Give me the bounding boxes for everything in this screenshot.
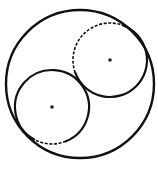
lower-left-center-dot xyxy=(50,105,54,109)
upper-right-center-dot xyxy=(108,58,112,62)
circles-diagram xyxy=(0,0,158,173)
upper-right-circle-dashed-arc xyxy=(73,23,123,73)
lower-left-circle-dashed-arc xyxy=(34,139,66,144)
